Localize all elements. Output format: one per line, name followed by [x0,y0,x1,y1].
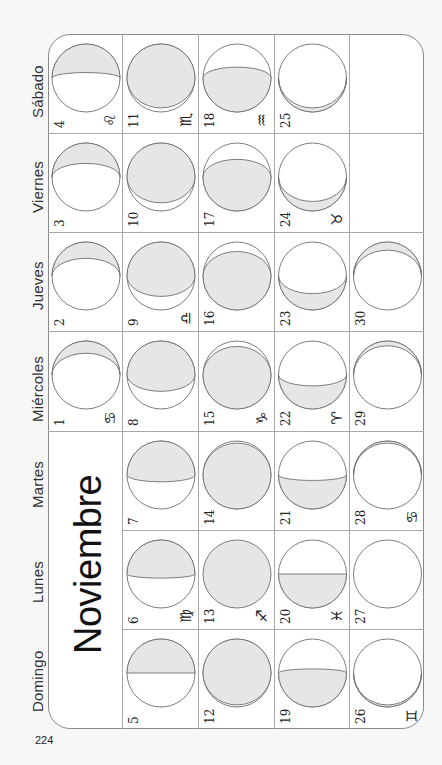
moon-phase-icon [203,242,271,310]
day-number: 5 [127,716,141,724]
day-number: 20 [279,609,293,624]
day-number: 24 [279,212,293,227]
day-number: 11 [127,113,141,128]
moon-phase-icon [127,540,195,608]
weekday-label-domingo: Domingo [29,651,46,712]
zodiac-sign-icon: ♐ [254,608,270,624]
zodiac-sign-icon: ♈ [329,410,345,426]
moon-phase-icon [127,44,195,112]
moon-phase-icon [279,639,347,707]
calendar-page: 4♌321♋11♏109♎876♍518♒171615♑1413♐122524♉… [0,0,442,765]
day-number: 21 [279,510,293,525]
zodiac-sign-icon: ♎ [178,310,194,326]
day-number: 4 [53,120,67,128]
zodiac-sign-icon: ♑ [254,410,270,426]
day-number: 30 [354,311,368,326]
weekday-label-viernes: Viernes [29,161,46,213]
moon-phase-icon [203,441,271,509]
moon-phase-icon [52,341,120,409]
moon-phase-icon [354,441,422,509]
moon-phase-icon [279,143,347,211]
moon-phase-icon [127,441,195,509]
zodiac-sign-icon: ♋ [102,410,118,426]
moon-phase-icon [279,540,347,608]
moon-phase-icon [203,44,271,112]
day-number: 16 [203,311,217,326]
moon-phase-icon [52,44,120,112]
moon-phase-icon [354,242,422,310]
zodiac-sign-icon: ♏ [178,112,194,128]
zodiac-sign-icon: ♍ [178,608,194,624]
weekday-label-martes: Martes [29,461,46,508]
day-number: 22 [279,411,293,426]
day-number: 10 [127,212,141,227]
moon-phase-icon [279,242,347,310]
zodiac-sign-icon: ♋ [404,509,420,525]
moon-phase-icon [52,143,120,211]
moon-phase-icon [127,143,195,211]
day-number: 15 [203,411,217,426]
page-number: 224 [35,734,53,746]
zodiac-sign-icon: ♓ [329,608,345,624]
zodiac-sign-icon: ♌ [102,112,118,128]
moon-phase-icon [354,341,422,409]
day-number: 6 [127,616,141,624]
day-number: 1 [53,418,67,426]
moon-phase-icon [354,639,422,707]
day-number: 23 [279,311,293,326]
moon-phase-icon [203,341,271,409]
weekday-label-sabado: Sábado [29,65,46,118]
month-title: Noviembre [67,475,110,654]
moon-phase-icon [127,242,195,310]
moon-phase-icon [127,639,195,707]
day-number: 7 [127,517,141,525]
day-number: 8 [127,418,141,426]
day-number: 27 [354,609,368,624]
weekday-label-miercoles: Miércoles [29,356,46,422]
day-number: 17 [203,212,217,227]
moon-phase-icon [52,242,120,310]
day-number: 2 [53,318,67,326]
day-number: 26 [354,709,368,724]
zodiac-sign-icon: ♊ [404,708,420,724]
moon-phase-icon [203,143,271,211]
day-number: 18 [203,113,217,128]
zodiac-sign-icon: ♉ [329,211,345,227]
moon-phase-icon [127,341,195,409]
day-number: 14 [203,510,217,525]
moon-phase-icon [203,639,271,707]
zodiac-sign-icon: ♒ [254,112,270,128]
day-number: 3 [53,219,67,227]
day-number: 19 [279,709,293,724]
moon-phase-icon [279,341,347,409]
moon-phase-icon [203,540,271,608]
weekday-label-lunes: Lunes [29,561,46,603]
moon-phase-icon [279,44,347,112]
day-number: 25 [279,113,293,128]
day-number: 29 [354,411,368,426]
day-number: 9 [127,318,141,326]
day-number: 28 [354,510,368,525]
day-number: 13 [203,609,217,624]
moon-phase-icon [354,540,422,608]
weekday-label-jueves: Jueves [29,261,46,310]
day-number: 12 [203,709,217,724]
moon-phase-icon [279,441,347,509]
